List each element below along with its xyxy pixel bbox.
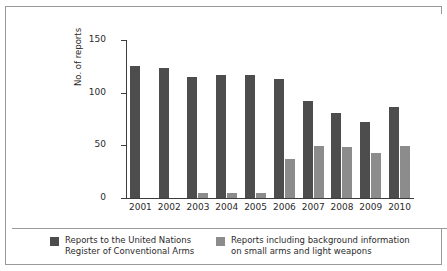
x-tick-label: 2001 bbox=[126, 202, 155, 213]
bar bbox=[389, 107, 399, 198]
bar-group bbox=[270, 40, 299, 198]
bar bbox=[314, 146, 324, 198]
bar-group bbox=[356, 40, 385, 198]
y-tick-label: 50 bbox=[95, 140, 106, 149]
bar bbox=[227, 193, 237, 198]
bar bbox=[159, 68, 169, 198]
bar-group bbox=[184, 40, 213, 198]
bar-group bbox=[385, 40, 414, 198]
legend-label: Reports including background information… bbox=[231, 235, 410, 257]
bar bbox=[256, 193, 266, 198]
chart-figure: No. of reports 150100500 200120022003200… bbox=[0, 0, 447, 271]
x-tick-label: 2004 bbox=[212, 202, 241, 213]
bar bbox=[360, 122, 370, 198]
legend-label: Reports to the United Nations Register o… bbox=[65, 235, 194, 257]
bar bbox=[130, 66, 140, 198]
bar bbox=[285, 159, 295, 198]
legend-swatch-icon bbox=[216, 237, 225, 246]
legend-entry-light: Reports including background information… bbox=[216, 235, 410, 257]
chart-legend: Reports to the United Nations Register o… bbox=[12, 229, 447, 271]
bar bbox=[342, 147, 352, 198]
bar bbox=[371, 153, 381, 198]
bar-group bbox=[126, 40, 155, 198]
bar bbox=[187, 77, 197, 198]
y-tick-mark bbox=[121, 198, 126, 199]
x-tick-label: 2003 bbox=[184, 202, 213, 213]
bar bbox=[400, 146, 410, 198]
bar-group bbox=[212, 40, 241, 198]
x-axis-line bbox=[126, 198, 414, 199]
legend-entry-dark: Reports to the United Nations Register o… bbox=[50, 235, 194, 257]
y-tick-label: 150 bbox=[89, 35, 106, 44]
x-tick-label: 2009 bbox=[356, 202, 385, 213]
y-tick-label: 100 bbox=[89, 88, 106, 97]
bars-layer bbox=[126, 40, 414, 198]
bar-group bbox=[299, 40, 328, 198]
bar bbox=[245, 75, 255, 198]
bar-group bbox=[155, 40, 184, 198]
y-tick-label: 0 bbox=[100, 193, 106, 202]
figure-frame: No. of reports 150100500 200120022003200… bbox=[5, 6, 442, 265]
plot-panel: No. of reports 150100500 200120022003200… bbox=[12, 14, 447, 229]
x-tick-label: 2010 bbox=[385, 202, 414, 213]
bar-group bbox=[328, 40, 357, 198]
x-tick-label: 2005 bbox=[241, 202, 270, 213]
x-tick-label: 2008 bbox=[328, 202, 357, 213]
bar bbox=[216, 75, 226, 198]
y-axis-title: No. of reports bbox=[73, 28, 83, 86]
legend-swatch-icon bbox=[50, 237, 59, 246]
bar bbox=[303, 101, 313, 198]
x-axis-labels: 2001200220032004200520062007200820092010 bbox=[126, 202, 414, 216]
x-tick-label: 2002 bbox=[155, 202, 184, 213]
bar bbox=[331, 113, 341, 198]
x-tick-label: 2007 bbox=[299, 202, 328, 213]
bar-group bbox=[241, 40, 270, 198]
bar bbox=[198, 193, 208, 198]
x-tick-label: 2006 bbox=[270, 202, 299, 213]
bar bbox=[274, 79, 284, 198]
